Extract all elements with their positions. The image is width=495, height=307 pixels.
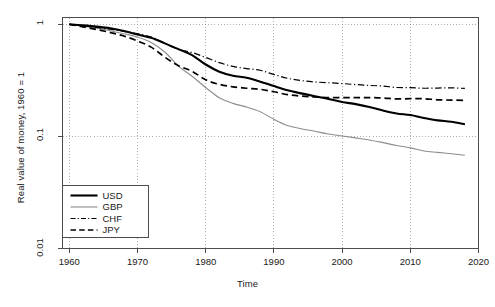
legend-label-jpy: JPY [103,224,120,235]
data-series-group [69,24,465,155]
x-tick-label: 1970 [116,256,160,267]
x-tick-label: 1980 [184,256,228,267]
y-tick-label: 0.1 [34,118,45,152]
legend-label-usd: USD [103,190,123,201]
series-line-usd [69,24,465,124]
chart-container: Real value of money, 1960 = 1 Time 10.10… [0,0,495,307]
x-axis-title: Time [0,278,495,289]
series-line-chf [69,24,465,88]
series-line-jpy [69,24,465,100]
y-axis-title: Real value of money, 1960 = 1 [15,58,26,218]
x-tick-label: 2010 [388,256,432,267]
x-tick-label: 2000 [320,256,364,267]
y-tick-label: 1 [34,6,45,40]
x-tick-label: 1990 [252,256,296,267]
legend-label-chf: CHF [103,213,123,224]
x-tick-label: 1960 [47,256,91,267]
legend-label-gbp: GBP [103,201,123,212]
y-tick-label: 0.01 [34,230,45,264]
x-tick-label: 2020 [457,256,495,267]
